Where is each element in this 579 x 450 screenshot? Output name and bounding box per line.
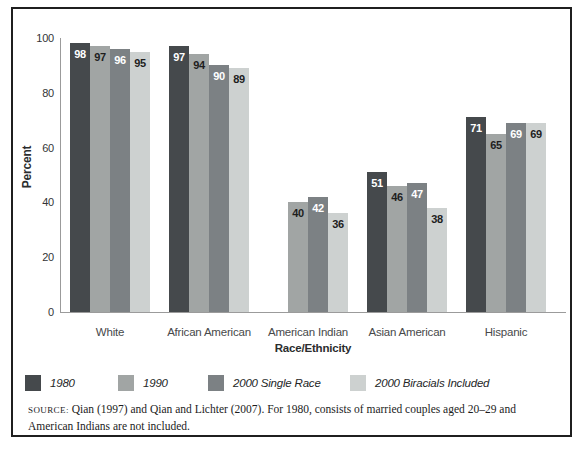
legend-swatch [208,375,224,391]
bar: 94 [189,54,209,312]
y-axis-line [60,38,61,312]
source-line1: Qian (1997) and Qian and Lichter (2007).… [72,403,516,415]
legend-swatch [350,375,366,391]
y-tick-label: 0 [13,305,54,319]
bar: 96 [110,49,130,312]
bar-value-label: 42 [308,202,328,214]
y-axis-title: Percent [20,102,34,232]
bar-value-label: 94 [189,59,209,71]
bar-value-label: 96 [110,54,130,66]
legend-label: 2000 Single Race [233,377,321,389]
bar-value-label: 97 [90,51,110,63]
bar-value-label: 38 [427,213,447,225]
bar: 71 [466,117,486,312]
bar: 95 [130,52,150,312]
figure: Percent Race/Ethnicity 02040608010098975… [0,0,579,450]
legend-swatch [25,375,41,391]
bar-value-label: 47 [407,188,427,200]
legend-label: 1990 [143,377,168,389]
category-label: American Indian [258,326,358,338]
bar-value-label: 89 [229,73,249,85]
bar: 90 [209,65,229,312]
legend-item: 2000 Biracials Included [350,375,489,391]
bar: 46 [387,186,407,312]
bar-value-label: 46 [387,191,407,203]
bar: 42 [308,197,328,312]
x-axis-line [60,312,566,313]
legend-item: 2000 Single Race [208,375,321,391]
bar-value-label: 71 [466,122,486,134]
bar: 97 [169,46,189,312]
source-line2: American Indians are not included. [28,418,548,434]
bar-value-label: 69 [506,128,526,140]
x-axis-title: Race/Ethnicity [60,342,566,354]
category-label: White [60,326,160,338]
figure-frame: Percent Race/Ethnicity 02040608010098975… [11,7,572,437]
source-prefix: SOURCE: [28,405,69,415]
category-label: African American [159,326,259,338]
bar: 98 [70,43,90,312]
bar: 69 [506,123,526,312]
y-tick-label: 80 [13,86,54,100]
category-label: Asian American [357,326,457,338]
bar-value-label: 97 [169,51,189,63]
bar-chart: Percent Race/Ethnicity 02040608010098975… [13,9,570,435]
bar: 40 [288,202,308,312]
y-tick-label: 60 [13,141,54,155]
bar-value-label: 40 [288,207,308,219]
y-tick-label: 40 [13,195,54,209]
category-label: Hispanic [456,326,556,338]
legend-label: 2000 Biracials Included [375,377,489,389]
legend: 198019902000 Single Race2000 Biracials I… [13,375,570,391]
bar-value-label: 51 [367,177,387,189]
bar: 89 [229,68,249,312]
bar-value-label: 69 [526,128,546,140]
bar: 69 [526,123,546,312]
legend-swatch [118,375,134,391]
y-tick-label: 20 [13,250,54,264]
bar-value-label: 36 [328,218,348,230]
bar-value-label: 98 [70,48,90,60]
bar: 65 [486,134,506,312]
legend-label: 1980 [50,377,75,389]
source-note: SOURCE: Qian (1997) and Qian and Lichter… [28,401,548,434]
bar-value-label: 65 [486,139,506,151]
bar: 97 [90,46,110,312]
bar: 36 [328,213,348,312]
bar-value-label: 95 [130,57,150,69]
bar: 47 [407,183,427,312]
legend-item: 1980 [25,375,75,391]
y-tick-label: 100 [13,31,54,45]
legend-item: 1990 [118,375,168,391]
bar: 51 [367,172,387,312]
bar: 38 [427,208,447,312]
bar-value-label: 90 [209,70,229,82]
